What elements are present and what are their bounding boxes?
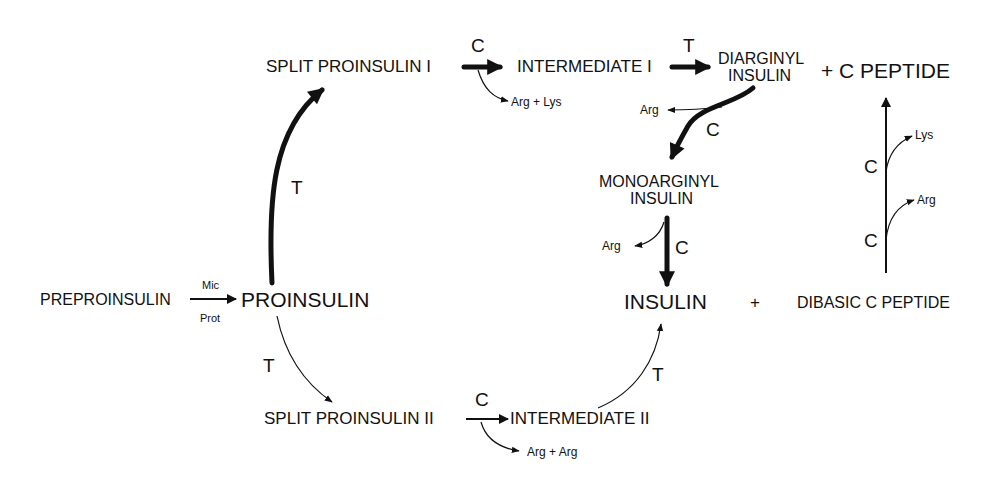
byproduct-arg-monoarginyl: Arg <box>602 239 621 253</box>
enzyme-t-lower: T <box>263 355 275 376</box>
enzyme-c-diarginyl: C <box>706 119 720 140</box>
enzyme-prot: Prot <box>200 312 220 324</box>
plus-sign: + <box>750 293 760 312</box>
enzyme-t-upper: T <box>291 177 303 198</box>
node-proinsulin: PROINSULIN <box>241 288 369 311</box>
arrow-proinsulin-to-split2 <box>277 316 332 402</box>
node-split-proinsulin-1: SPLIT PROINSULIN I <box>266 57 431 76</box>
enzyme-c-peptide-upper: C <box>864 156 878 177</box>
enzyme-c-split2: C <box>475 389 489 410</box>
node-insulin: INSULIN <box>624 290 707 313</box>
byproduct-arg-diarginyl: Arg <box>640 103 659 117</box>
proinsulin-conversion-diagram: PREPROINSULIN Mic Prot PROINSULIN T SPLI… <box>0 0 1007 480</box>
byproduct-lys-peptide: Lys <box>915 128 933 142</box>
node-plus-c-peptide: + C PEPTIDE <box>821 59 950 82</box>
node-dibasic-c-peptide: DIBASIC C PEPTIDE <box>797 294 950 311</box>
byproduct-arg-lys: Arg + Lys <box>511 95 562 109</box>
enzyme-c-peptide-lower: C <box>864 230 878 251</box>
enzyme-c-split1: C <box>471 35 485 56</box>
arrow-byproduct-lys-peptide <box>886 136 912 172</box>
node-monoarginyl-line1: MONOARGINYL <box>599 173 719 190</box>
enzyme-mic: Mic <box>202 279 220 291</box>
node-diarginyl-line2: INSULIN <box>728 67 791 84</box>
arrow-byproduct-arg-peptide <box>886 200 914 240</box>
node-split-proinsulin-2: SPLIT PROINSULIN II <box>264 409 434 428</box>
byproduct-arg-arg: Arg + Arg <box>527 445 577 459</box>
byproduct-arg-peptide: Arg <box>917 193 936 207</box>
node-intermediate-2: INTERMEDIATE II <box>510 409 649 428</box>
enzyme-t-inter1: T <box>683 35 695 56</box>
enzyme-t-inter2: T <box>652 364 664 385</box>
arrow-byproduct-arg-monoarginyl <box>635 222 664 246</box>
node-monoarginyl-line2: INSULIN <box>630 190 693 207</box>
node-diarginyl-line1: DIARGINYL <box>718 50 804 67</box>
node-preproinsulin: PREPROINSULIN <box>40 291 171 308</box>
enzyme-c-monoarginyl: C <box>675 237 689 258</box>
node-intermediate-1: INTERMEDIATE I <box>517 57 652 76</box>
arrow-byproduct-arg-lys <box>478 70 508 101</box>
